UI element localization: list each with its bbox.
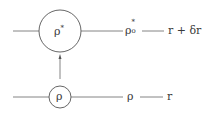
top-result-label: r + δr [168,25,201,36]
diagram-canvas: ρ* ρ ρ*o r + δr ρ r [0,0,213,116]
bottom-output-label: ρ [127,91,133,102]
top-node-label: ρ* [54,25,64,37]
bottom-node-label: ρ [56,91,62,102]
top-output-label: ρ*o [125,25,131,36]
arrow-head-icon [59,54,62,59]
bottom-result-label: r [167,91,172,102]
diagram-lines [0,0,213,116]
